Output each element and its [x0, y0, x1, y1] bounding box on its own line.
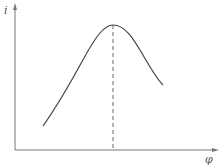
- x-axis-label: φ: [205, 153, 213, 166]
- y-axis-arrow-icon: [13, 3, 17, 10]
- y-axis-label: i: [4, 4, 8, 17]
- data-curve: [43, 25, 163, 126]
- chart: i φ: [0, 0, 222, 166]
- x-axis-arrow-icon: [212, 148, 219, 152]
